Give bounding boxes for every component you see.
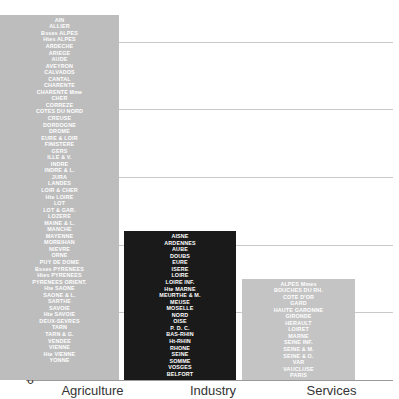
bar-services[interactable]: ALPES MmesBOUCHES DU RH.COTE D'ORGARDHAU… [242,279,355,380]
department-label: BELFORT [167,371,194,378]
department-label: PARIS [290,372,307,379]
bar-agriculture[interactable]: AINALLIERBsses ALPESHtes ALPESARDECHEARI… [0,15,119,380]
x-axis-label-services: Services [275,383,388,398]
bar-industry[interactable]: AISNEARDENNESAUBEDOUBSEUREISERELOIRELOIR… [124,231,236,380]
bar-agriculture-labels: AINALLIERBsses ALPESHtes ALPESARDECHEARI… [0,15,119,380]
bar-services-labels: ALPES MmesBOUCHES DU RH.COTE D'ORGARDHAU… [242,279,355,380]
x-axis-line [33,380,393,381]
bar-chart: 01020304050 AINALLIERBsses ALPESHtes ALP… [0,0,399,399]
department-label: YONNE [50,357,70,364]
bar-industry-labels: AISNEARDENNESAUBEDOUBSEUREISERELOIRELOIR… [124,231,236,380]
x-axis-label-industry: Industry [157,383,269,398]
x-axis-label-agriculture: Agriculture [33,383,152,398]
